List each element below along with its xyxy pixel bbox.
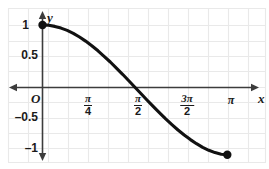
x-tick-3pi-over-2-denominator: 2 [184,106,190,118]
origin-label: O [31,92,40,105]
y-tick-label-1: 1 [22,19,29,31]
y-tick-label-neg-0-5: –0.5 [15,111,38,123]
x-tick-pi-over-4-denominator: 4 [85,106,91,118]
graph-figure: 1 0.5 –0.5 –1 O y x π 4 π 2 3π 2 π [0,0,269,169]
endpoint-dot-start [38,21,46,29]
x-tick-label-pi-over-4: π 4 [84,93,92,117]
y-axis-label: y [47,11,53,24]
x-tick-pi-over-2-denominator: 2 [135,106,141,118]
x-tick-pi-over-2-numerator: π [134,93,142,106]
x-axis-label: x [258,92,265,105]
plot-canvas [0,0,269,169]
x-tick-label-pi-over-2: π 2 [134,93,142,117]
endpoint-dot-end [223,151,231,159]
x-tick-3pi-over-2-numerator: 3π [180,93,194,106]
x-tick-pi-over-4-numerator: π [84,93,92,106]
y-tick-label-neg-1: –1 [25,142,38,154]
x-tick-label-pi: π [228,94,235,106]
x-tick-label-3pi-over-2: 3π 2 [180,93,194,117]
y-tick-label-0-5: 0.5 [21,49,38,61]
